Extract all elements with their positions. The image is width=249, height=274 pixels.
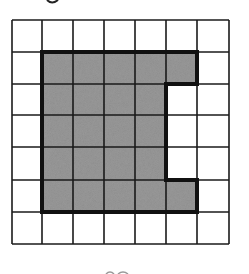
shaded-cell	[42, 147, 74, 181]
shaded-cell	[73, 115, 105, 148]
shaded-cell	[73, 52, 105, 85]
shaded-cell	[104, 115, 136, 148]
shaded-cell	[42, 115, 74, 148]
shaded-cell	[135, 115, 167, 148]
shaded-cell	[104, 180, 136, 213]
shaded-cell	[42, 52, 74, 85]
shaded-cell	[135, 84, 167, 116]
shaded-cell	[166, 52, 198, 85]
shaded-cell	[166, 180, 198, 213]
grid-diagram	[0, 0, 249, 274]
shaded-cell	[73, 180, 105, 213]
shaded-cell	[104, 84, 136, 116]
shaded-cell	[135, 52, 167, 85]
shaded-cell	[104, 147, 136, 181]
shaded-cell	[73, 84, 105, 116]
shaded-cell	[135, 180, 167, 213]
shaded-cell	[42, 84, 74, 116]
shaded-cell	[104, 52, 136, 85]
shaded-region	[42, 52, 198, 213]
shaded-cell	[73, 147, 105, 181]
shaded-cell	[135, 147, 167, 181]
shaded-cell	[42, 180, 74, 213]
top-glyph-fragment	[47, 0, 58, 3]
